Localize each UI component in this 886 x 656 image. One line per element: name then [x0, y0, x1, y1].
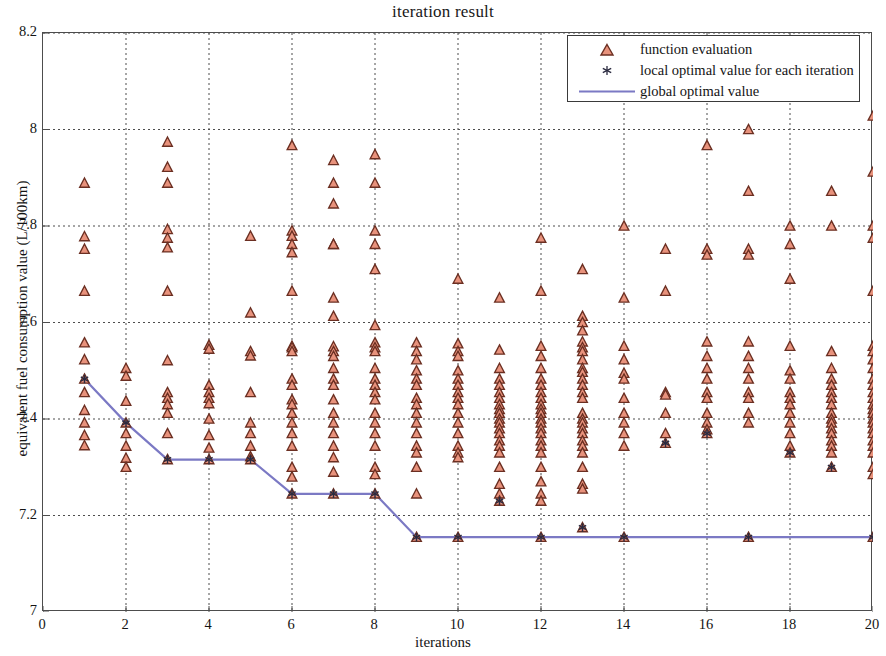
x-tick-label: 16 — [686, 617, 726, 632]
x-tick-label: 2 — [105, 617, 145, 632]
legend-item-local-optimal: local optimal value for each iteration — [568, 60, 861, 81]
x-tick-label: 12 — [520, 617, 560, 632]
x-tick-label: 6 — [271, 617, 311, 632]
legend-item-global-optimal: global optimal value — [568, 81, 861, 102]
legend-label: global optimal value — [640, 82, 759, 101]
x-axis-label: iterations — [0, 634, 886, 651]
chart-legend: function evaluation local optimal value … — [567, 35, 860, 102]
plot-area — [42, 32, 872, 611]
line-sample-icon — [576, 81, 638, 102]
x-tick-label: 4 — [188, 617, 228, 632]
asterisk-marker-icon — [576, 60, 638, 81]
legend-item-function-evaluation: function evaluation — [568, 39, 861, 60]
plot-canvas — [43, 33, 873, 612]
legend-label: local optimal value for each iteration — [640, 61, 854, 80]
x-tick-label: 8 — [354, 617, 394, 632]
function-evaluation-points — [80, 111, 873, 542]
x-tick-label: 10 — [437, 617, 477, 632]
x-tick-label: 0 — [22, 617, 62, 632]
gridlines — [43, 33, 873, 612]
x-tick-label: 18 — [769, 617, 809, 632]
global-optimal-line — [85, 379, 874, 537]
y-tick-label: 7 — [1, 603, 37, 618]
y-tick-label: 8.2 — [1, 24, 37, 39]
x-tick-label: 20 — [852, 617, 886, 632]
legend-label: function evaluation — [640, 40, 752, 59]
chart-title: iteration result — [0, 2, 886, 22]
x-tick-label: 14 — [603, 617, 643, 632]
local-optimal-points — [81, 375, 873, 542]
y-axis-label: equivalent fuel consumption value (L/100… — [14, 59, 31, 579]
chart-figure: iteration result 77.27.47.67.888.2 02468… — [0, 0, 886, 656]
triangle-marker-icon — [576, 39, 638, 60]
